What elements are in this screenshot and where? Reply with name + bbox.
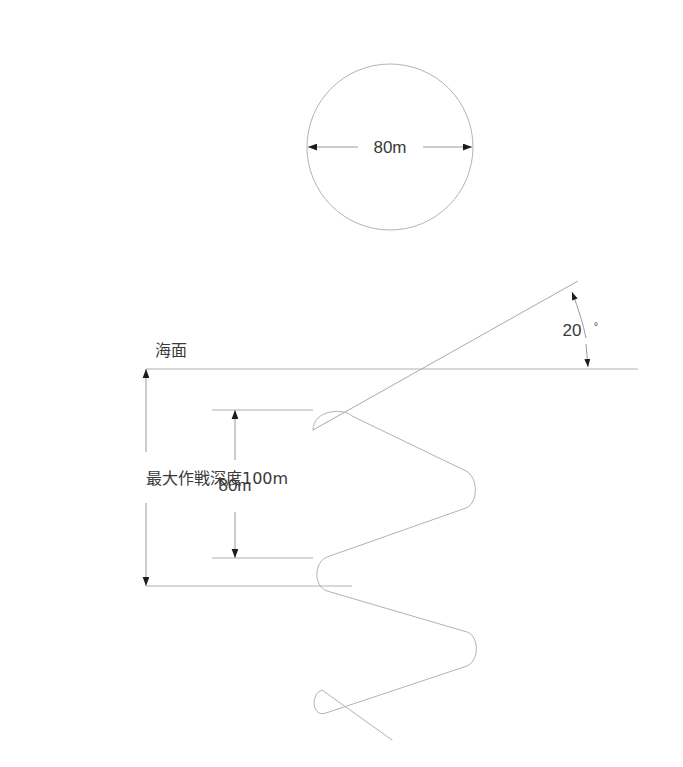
sea-surface-label: 海面 — [155, 341, 187, 360]
angle-value-label: 20 — [563, 321, 582, 340]
technical-diagram: 80m 海面 20 ° 最大作戦深度100m — [0, 0, 683, 767]
ascent-angle-line — [313, 281, 578, 430]
side-view-group: 海面 20 ° 最大作戦深度100m 80m — [146, 281, 638, 740]
plan-view-group: 80m — [307, 64, 473, 230]
diagram-canvas: 80m 海面 20 ° 最大作戦深度100m — [0, 0, 683, 767]
angle-arc-lower-leg — [586, 344, 588, 367]
circle-diameter-label: 80m — [373, 138, 406, 157]
search-pattern-zigzag — [313, 411, 476, 740]
amplitude-label: 80m — [218, 476, 251, 495]
degree-symbol-icon: ° — [594, 320, 598, 332]
max-operational-depth-label: 最大作戦深度100m — [146, 469, 288, 488]
